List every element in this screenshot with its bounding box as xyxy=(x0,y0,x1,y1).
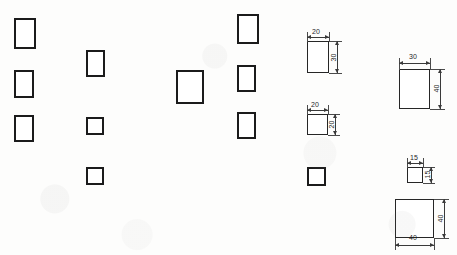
arrow-left-icon xyxy=(307,35,311,39)
arrow-up-icon xyxy=(438,69,442,73)
dimension-line-bottom xyxy=(395,245,434,246)
dim-shape-body xyxy=(407,167,423,183)
extension-line-bottom xyxy=(423,183,435,184)
arrow-left-icon xyxy=(395,243,399,247)
dimension-right-value: 20 xyxy=(328,120,335,128)
shape-rectangle-3 xyxy=(14,115,34,142)
dim-shape-body xyxy=(395,199,434,238)
shape-rectangle-8 xyxy=(237,14,259,44)
extension-line-bottom xyxy=(430,109,445,110)
dimension-bottom-value: 40 xyxy=(409,234,417,241)
extension-line-bottom xyxy=(434,238,449,239)
arrow-up-icon xyxy=(442,199,446,203)
dimension-top-value: 20 xyxy=(312,28,320,35)
dim-shape-body xyxy=(307,114,328,135)
dimension-top-value: 30 xyxy=(409,53,417,60)
arrow-down-icon xyxy=(333,131,337,135)
arrow-left-icon xyxy=(307,108,311,112)
arrow-down-icon xyxy=(442,234,446,238)
arrow-right-icon xyxy=(430,243,434,247)
dimension-right-value: 40 xyxy=(437,214,444,222)
arrow-up-icon xyxy=(335,41,339,45)
arrow-down-icon xyxy=(438,105,442,109)
arrow-down-icon xyxy=(335,69,339,73)
dim-shape-body xyxy=(307,41,329,73)
shape-square-11 xyxy=(307,167,326,186)
shape-rectangle-7 xyxy=(176,70,204,104)
shape-rectangle-9 xyxy=(237,65,256,92)
dimension-top-value: 20 xyxy=(311,101,319,108)
dimension-line-right xyxy=(440,69,441,109)
arrow-left-icon xyxy=(407,161,411,165)
arrow-right-icon xyxy=(325,35,329,39)
extension-line-bottom xyxy=(329,73,342,74)
dimension-top-value: 15 xyxy=(410,154,418,161)
arrow-right-icon xyxy=(426,61,430,65)
dimension-right-value: 30 xyxy=(330,53,337,61)
shape-rectangle-2 xyxy=(14,70,34,98)
arrow-right-icon xyxy=(324,108,328,112)
dimension-right-value: 40 xyxy=(433,84,440,92)
shape-rectangle-4 xyxy=(86,50,105,77)
dimension-line-right xyxy=(444,199,445,238)
drawing-sheet: 20 30 20 20 30 xyxy=(0,0,457,255)
arrow-right-icon xyxy=(419,161,423,165)
dim-shape-body xyxy=(399,69,430,109)
arrow-down-icon xyxy=(429,179,433,183)
shape-square-6 xyxy=(86,167,104,185)
shape-square-5 xyxy=(86,117,104,135)
arrow-left-icon xyxy=(399,61,403,65)
shape-rectangle-10 xyxy=(237,112,256,139)
dimension-right-value: 15 xyxy=(424,170,431,178)
shape-rectangle-1 xyxy=(14,18,36,49)
extension-line-bottom xyxy=(328,135,340,136)
arrow-up-icon xyxy=(333,114,337,118)
extension-line-right xyxy=(434,238,435,250)
